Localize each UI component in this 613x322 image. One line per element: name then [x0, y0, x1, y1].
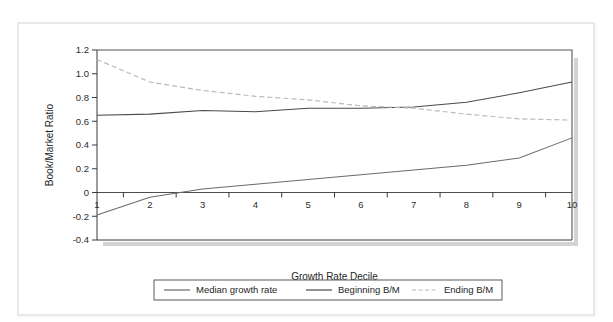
legend-label-2: Beginning B/M: [338, 284, 400, 295]
y-tick-label: 0.8: [76, 92, 89, 103]
y-axis-title: Book/Market Ratio: [44, 103, 55, 186]
y-tick-label: -0.4: [73, 234, 89, 245]
x-tick-label: 8: [464, 199, 469, 210]
chart-canvas: 1.21.00.80.60.40.20-0.2-0.412345678910Gr…: [19, 24, 597, 318]
x-tick-label: 9: [517, 199, 522, 210]
x-tick-label: 3: [200, 199, 205, 210]
x-tick-label: 4: [253, 199, 258, 210]
series-line-ending-b-m: [97, 60, 572, 121]
y-tick-label: 1.0: [76, 68, 89, 79]
x-tick-label: 5: [305, 199, 310, 210]
line-chart: 1.21.00.80.60.40.20-0.2-0.412345678910Gr…: [19, 24, 597, 318]
y-tick-label: -0.2: [73, 211, 89, 222]
y-tick-label: 0.6: [76, 116, 89, 127]
series-line-median-growth-rate: [97, 138, 572, 215]
x-tick-label: 1: [94, 199, 99, 210]
screenshot-root: 1.21.00.80.60.40.20-0.2-0.412345678910Gr…: [0, 0, 613, 322]
x-tick-label: 6: [358, 199, 363, 210]
series-line-beginning-b-m: [97, 82, 572, 115]
x-tick-label: 7: [411, 199, 416, 210]
legend-label-3: Ending B/M: [444, 284, 493, 295]
figure-card: 1.21.00.80.60.40.20-0.2-0.412345678910Gr…: [17, 22, 595, 316]
y-tick-label: 0.4: [76, 139, 89, 150]
y-tick-label: 0.2: [76, 163, 89, 174]
legend-label-1: Median growth rate: [196, 284, 277, 295]
y-tick-label: 1.2: [76, 44, 89, 55]
y-tick-label: 0: [84, 187, 89, 198]
x-tick-label: 10: [567, 199, 578, 210]
x-tick-label: 2: [147, 199, 152, 210]
plot-frame: [97, 50, 572, 240]
